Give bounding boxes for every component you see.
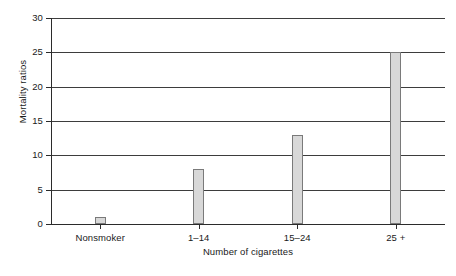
y-tick-mark-10 (46, 155, 51, 156)
bar-0 (95, 217, 106, 224)
x-tick-label-0: Nonsmoker (45, 232, 155, 243)
gridline-y-20 (51, 87, 445, 88)
y-tick-mark-20 (46, 87, 51, 88)
plot-area (51, 18, 445, 224)
x-tick-mark-3 (396, 224, 397, 229)
y-tick-label-0: 0 (3, 219, 43, 229)
gridline-y-0 (51, 224, 445, 225)
x-tick-label-2: 15–24 (242, 232, 352, 243)
x-tick-label-3: 25 + (341, 232, 451, 243)
gridline-y-25 (51, 52, 445, 53)
y-tick-mark-30 (46, 18, 51, 19)
bar-3 (390, 52, 401, 224)
y-tick-mark-5 (46, 190, 51, 191)
bar-2 (292, 135, 303, 224)
y-tick-label-30: 30 (3, 13, 43, 23)
gridline-y-5 (51, 190, 445, 191)
figure-bar-chart-mortality-ratios: Mortality ratios Number of cigarettes 05… (0, 0, 456, 276)
gridline-y-15 (51, 121, 445, 122)
y-tick-label-15: 15 (3, 116, 43, 126)
x-tick-mark-0 (100, 224, 101, 229)
y-tick-label-20: 20 (3, 82, 43, 92)
x-axis-title: Number of cigarettes (51, 246, 445, 257)
y-axis-line (51, 18, 52, 224)
x-tick-mark-1 (199, 224, 200, 229)
x-tick-label-1: 1–14 (144, 232, 254, 243)
x-tick-mark-2 (297, 224, 298, 229)
y-tick-label-25: 25 (3, 47, 43, 57)
gridline-y-30 (51, 18, 445, 19)
y-tick-mark-0 (46, 224, 51, 225)
figure-caption (28, 268, 428, 276)
y-tick-label-5: 5 (3, 185, 43, 195)
bar-1 (193, 169, 204, 224)
gridline-y-10 (51, 155, 445, 156)
y-tick-mark-25 (46, 52, 51, 53)
y-tick-label-10: 10 (3, 150, 43, 160)
y-tick-mark-15 (46, 121, 51, 122)
